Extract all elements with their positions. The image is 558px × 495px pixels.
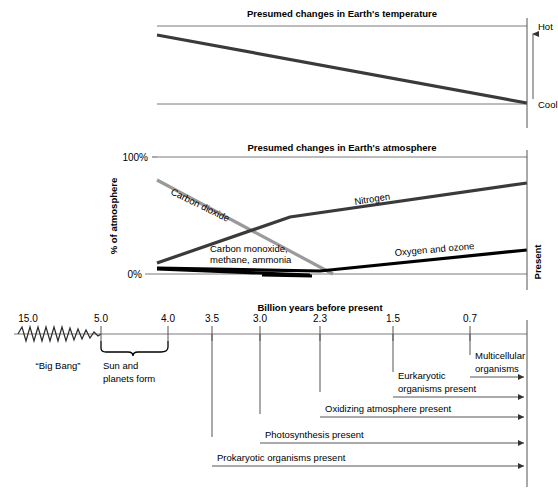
event-label-eukaryotic-line1: Eurkaryotic	[398, 370, 446, 381]
event-label-multicellular-line2: organisms	[475, 363, 519, 374]
event-label-prokaryotic: Prokaryotic organisms present	[217, 452, 346, 463]
figure-canvas: Presumed changes in Earth's temperature …	[0, 0, 558, 495]
event-label-oxidizing: Oxidizing atmosphere present	[325, 403, 452, 414]
timeline-axis	[14, 320, 527, 356]
tick-label-2-3: 2.3	[313, 313, 327, 324]
tick-label-15-0: 15.0	[18, 313, 38, 324]
sun-planets-label-line2: planets form	[103, 373, 155, 384]
tick-label-3-5: 3.5	[205, 313, 219, 324]
trace-gases-tail	[262, 275, 312, 276]
atm-ytick-0: 0%	[128, 269, 143, 280]
atmosphere-panel	[145, 150, 527, 290]
present-label: Present	[532, 244, 543, 280]
tick-label-5-0: 5.0	[94, 313, 108, 324]
temperature-cool-label: Cool	[538, 99, 558, 110]
temperature-panel-title: Presumed changes in Earth's temperature	[247, 8, 437, 19]
temperature-panel	[157, 18, 533, 128]
sun-planets-brace	[101, 341, 168, 356]
atm-y-axis-label: % of atmosphere	[108, 178, 119, 255]
tick-label-3-0: 3.0	[253, 313, 267, 324]
tick-label-1-5: 1.5	[386, 313, 400, 324]
timeline-title: Billion years before present	[257, 302, 383, 313]
series-label-carbon-dioxide: Carbon dioxide	[169, 186, 231, 224]
temperature-hot-label: Hot	[538, 21, 553, 32]
sun-planets-label-line1: Sun and	[103, 360, 138, 371]
series-label-trace-gases-line2: methane, ammonia	[210, 254, 292, 265]
series-label-trace-gases-line1: Carbon monoxide,	[210, 243, 288, 254]
atmosphere-panel-title: Presumed changes in Earth's atmosphere	[247, 142, 436, 153]
temperature-curve	[157, 35, 527, 103]
atm-ytick-100: 100%	[122, 152, 148, 163]
big-bang-label: “Big Bang”	[36, 360, 81, 371]
tick-label-0-7: 0.7	[463, 313, 477, 324]
event-label-photosynthesis: Photosynthesis present	[265, 429, 364, 440]
event-label-eukaryotic-line2: organisms present	[398, 383, 477, 394]
figure-root: Presumed changes in Earth's temperature …	[0, 0, 558, 495]
tick-label-4-0: 4.0	[161, 313, 175, 324]
event-label-multicellular-line1: Multicellular	[475, 350, 525, 361]
